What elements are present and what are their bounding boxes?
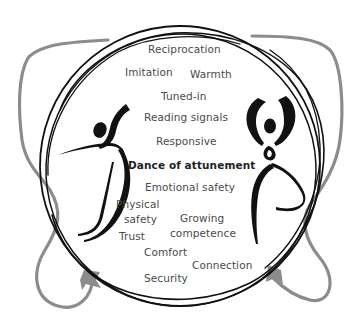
label-growing-competence-line1: Growing <box>180 213 224 224</box>
left-loop-arrow-icon <box>20 40 108 307</box>
label-comfort: Comfort <box>144 247 187 258</box>
label-security: Security <box>144 273 188 284</box>
label-imitation: Imitation <box>125 67 173 78</box>
label-dance-of-attunement: Dance of attunement <box>128 160 255 171</box>
attunement-diagram: Reciprocation Imitation Warmth Tuned-in … <box>0 0 360 327</box>
label-connection: Connection <box>192 260 252 271</box>
label-physical-safety-line1: Physical <box>116 199 160 210</box>
label-reciprocation: Reciprocation <box>148 44 221 55</box>
left-dancer-figure <box>58 104 130 242</box>
label-trust: Trust <box>119 231 145 242</box>
label-responsive: Responsive <box>156 136 217 147</box>
label-growing-competence-line2: competence <box>170 228 236 239</box>
label-warmth: Warmth <box>190 69 232 80</box>
label-emotional-safety: Emotional safety <box>145 182 235 193</box>
label-tuned-in: Tuned-in <box>161 91 206 102</box>
label-reading-signals: Reading signals <box>144 112 228 123</box>
label-physical-safety-line2: safety <box>124 214 157 225</box>
